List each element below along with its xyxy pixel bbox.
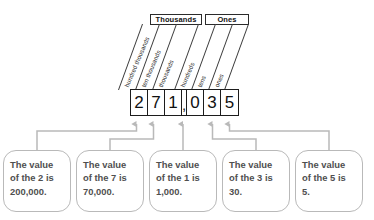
callout-line-1: The value (83, 158, 138, 171)
callout-line-1: The value (156, 158, 211, 171)
callout-digit-5: The value of the 5 is 5. (295, 150, 363, 212)
callout-line-3: 1,000. (156, 185, 211, 198)
digit-cell-ten-thousands: 7 (148, 90, 165, 115)
callout-line-2: of the 7 is (83, 171, 138, 184)
digit-cell-tens: 3 (204, 90, 221, 115)
connector-digit-3 (213, 124, 257, 150)
callout-digit-1: The value of the 1 is 1,000. (149, 150, 217, 212)
callout-line-1: The value (229, 158, 284, 171)
callout-digit-2: The value of the 2 is 200,000. (3, 150, 71, 212)
digit-cell-thousands: 1 (165, 90, 182, 115)
callout-line-3: 5. (302, 185, 357, 198)
callout-line-3: 70,000. (83, 185, 138, 198)
callout-digit-7: The value of the 7 is 70,000. (76, 150, 144, 212)
callout-line-2: of the 5 is (302, 171, 357, 184)
place-value-diagram: Thousands Ones hundred thousands ten tho… (0, 0, 374, 220)
callout-line-1: The value (10, 158, 65, 171)
callout-line-2: of the 2 is (10, 171, 65, 184)
digit-row: 2 7 1 , 0 3 5 (130, 89, 239, 116)
callout-line-1: The value (302, 158, 357, 171)
callout-line-2: of the 1 is (156, 171, 211, 184)
digit-cell-hundred-thousands: 2 (131, 90, 148, 115)
place-label-row: hundred thousands ten thousands thousand… (118, 24, 268, 90)
digit-cell-hundreds: 0 (187, 90, 204, 115)
callout-digit-3: The value of the 3 is 30. (222, 150, 290, 212)
connector-digit-2 (37, 124, 137, 150)
callout-line-2: of the 3 is (229, 171, 284, 184)
callout-line-3: 30. (229, 185, 284, 198)
callout-line-3: 200,000. (10, 185, 65, 198)
digit-cell-ones: 5 (221, 90, 238, 115)
connector-digit-5 (230, 124, 330, 150)
connector-digit-7 (110, 124, 154, 150)
